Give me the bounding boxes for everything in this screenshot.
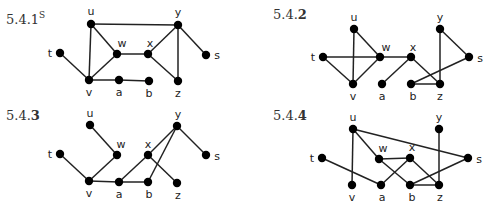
edge-u-v xyxy=(352,129,353,185)
vertex-label-w: w xyxy=(382,42,391,53)
vertex-s xyxy=(202,151,210,159)
vertex-a xyxy=(115,178,123,186)
vertex-label-u: u xyxy=(87,108,94,119)
vertex-y xyxy=(436,25,444,33)
vertex-b xyxy=(406,181,414,189)
vertex-w xyxy=(376,53,384,61)
vertex-label-z: z xyxy=(437,91,443,102)
vertex-label-u: u xyxy=(88,6,95,17)
edge-t-v xyxy=(323,57,353,84)
vertex-u xyxy=(350,25,358,33)
vertex-label-t: t xyxy=(48,48,52,59)
vertex-label-w: w xyxy=(118,38,127,49)
vertex-t xyxy=(318,154,326,162)
edge-x-z xyxy=(148,155,177,183)
edge-y-b xyxy=(148,126,177,182)
edge-u-w xyxy=(91,24,117,54)
vertex-z xyxy=(436,80,444,88)
edge-v-w xyxy=(89,54,117,80)
vertex-label-b: b xyxy=(146,189,153,200)
vertex-label-u: u xyxy=(350,112,357,123)
vertex-a xyxy=(115,76,123,84)
graph-drawings xyxy=(0,0,488,205)
vertex-label-x: x xyxy=(409,142,416,153)
edge-a-b xyxy=(119,80,149,81)
vertex-w xyxy=(113,50,121,58)
vertex-v xyxy=(348,181,356,189)
vertex-x xyxy=(407,53,415,61)
edge-x-y xyxy=(148,126,177,155)
figure-label-5-4-3: 5.4.3 xyxy=(6,108,40,123)
graph-5-4-1 xyxy=(56,20,210,85)
vertex-y xyxy=(435,125,443,133)
vertex-w xyxy=(113,151,121,159)
vertex-b xyxy=(407,80,415,88)
vertex-label-y: y xyxy=(437,12,444,23)
vertex-y xyxy=(173,122,181,130)
vertex-label-v: v xyxy=(86,87,93,98)
vertex-label-z: z xyxy=(437,192,443,203)
edge-x-z xyxy=(411,57,440,84)
graph-5-4-2 xyxy=(319,25,473,88)
edge-x-z xyxy=(148,54,178,81)
vertex-label-a: a xyxy=(379,192,386,203)
vertex-label-z: z xyxy=(175,190,181,201)
vertex-v xyxy=(85,76,93,84)
vertex-label-t: t xyxy=(311,52,315,63)
vertex-s xyxy=(465,53,473,61)
vertex-v xyxy=(349,80,357,88)
vertex-label-u: u xyxy=(351,12,358,23)
edge-u-w xyxy=(353,129,379,159)
vertex-a xyxy=(378,80,386,88)
edge-y-s xyxy=(440,29,469,57)
vertex-z xyxy=(435,181,443,189)
vertex-y xyxy=(174,21,182,29)
vertex-label-t: t xyxy=(48,149,52,160)
vertex-label-v: v xyxy=(350,91,357,102)
vertex-label-v: v xyxy=(349,192,356,203)
vertex-t xyxy=(56,49,64,57)
edge-u-y xyxy=(91,24,178,25)
vertex-label-x: x xyxy=(410,42,417,53)
edge-v-a xyxy=(89,181,119,182)
graph-figure-canvas: utwvaxysbz5.4.1Sutwvaxysbz5.4.2utwvaxysb… xyxy=(0,0,488,205)
vertex-label-y: y xyxy=(436,112,443,123)
edge-y-s xyxy=(178,25,206,55)
vertex-label-s: s xyxy=(214,151,220,162)
vertex-x xyxy=(144,50,152,58)
vertex-x xyxy=(406,154,414,162)
vertex-label-t: t xyxy=(310,153,314,164)
edge-w-x xyxy=(379,158,410,159)
edge-t-v xyxy=(60,53,89,80)
vertex-t xyxy=(319,53,327,61)
vertex-t xyxy=(56,150,64,158)
vertex-v xyxy=(85,177,93,185)
vertex-label-a: a xyxy=(116,189,123,200)
edge-y-s xyxy=(177,126,206,155)
vertex-x xyxy=(144,151,152,159)
vertex-label-w: w xyxy=(117,139,126,150)
vertex-label-x: x xyxy=(145,139,152,150)
edge-a-x xyxy=(119,155,148,182)
vertex-u xyxy=(86,121,94,129)
graph-5-4-3 xyxy=(56,121,210,187)
figure-label-5-4-1: 5.4.1S xyxy=(6,11,45,27)
edge-u-w xyxy=(90,125,117,155)
vertex-s xyxy=(464,154,472,162)
vertex-b xyxy=(144,178,152,186)
vertex-label-y: y xyxy=(175,7,182,18)
vertex-label-a: a xyxy=(116,87,123,98)
edge-t-v xyxy=(60,154,89,181)
vertex-label-s: s xyxy=(214,50,220,61)
vertex-label-s: s xyxy=(476,154,482,165)
vertex-label-a: a xyxy=(379,91,386,102)
vertex-label-b: b xyxy=(409,192,416,203)
vertex-b xyxy=(145,77,153,85)
edge-x-z xyxy=(410,158,439,185)
edge-v-w xyxy=(353,57,380,84)
vertex-label-w: w xyxy=(379,143,388,154)
vertex-a xyxy=(377,181,385,189)
edge-x-a xyxy=(382,57,411,84)
vertex-label-y: y xyxy=(175,109,182,120)
edge-u-v xyxy=(89,24,91,80)
